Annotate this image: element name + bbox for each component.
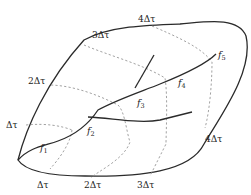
main-fault	[18, 54, 216, 160]
fault-branch-f3	[135, 55, 154, 88]
fault-contour-diagram: 3Δτ 2Δτ Δτ 4Δτ Δτ 2Δτ 3Δτ 4Δτ f1 f2 f3 f…	[0, 0, 251, 195]
label-left-3dt: 3Δτ	[92, 30, 109, 40]
region-boundary	[18, 22, 247, 177]
label-f2: f2	[86, 125, 95, 138]
label-f4: f4	[177, 77, 186, 90]
fault-branch-f2	[88, 112, 192, 121]
label-right-4dt: 4Δτ	[205, 134, 222, 144]
label-f3: f3	[136, 97, 145, 110]
contour-1	[26, 124, 72, 169]
label-f5: f5	[217, 49, 226, 62]
label-top-4dt: 4Δτ	[138, 14, 155, 24]
label-left-1dt: Δτ	[6, 120, 17, 130]
label-bottom-2dt: 2Δτ	[84, 180, 101, 190]
label-bottom-1dt: Δτ	[37, 180, 48, 190]
contour-4	[152, 26, 212, 128]
label-left-2dt: 2Δτ	[28, 76, 45, 86]
label-bottom-3dt: 3Δτ	[137, 180, 154, 190]
contour-3	[84, 45, 167, 176]
